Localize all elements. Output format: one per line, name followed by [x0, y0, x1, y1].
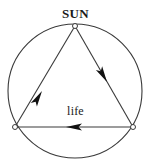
vertex-marker-bottom-left — [13, 125, 18, 130]
enclosing-circle — [8, 24, 142, 158]
vertex-marker-bottom-right — [131, 125, 136, 130]
cycle-diagram-svg — [0, 0, 151, 167]
life-label: life — [0, 105, 151, 117]
sun-label: SUN — [0, 7, 151, 20]
diagram-canvas: SUN life — [0, 0, 151, 167]
arrowhead-right-edge-icon — [96, 66, 110, 83]
vertex-marker-sun — [73, 24, 78, 29]
